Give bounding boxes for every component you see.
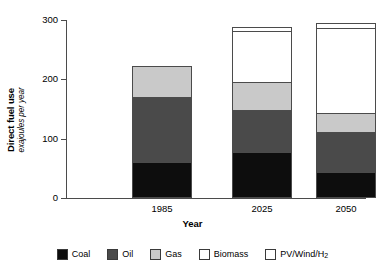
y-tick-mark: [61, 79, 66, 80]
legend-label: Oil: [122, 250, 133, 259]
legend-swatch: [57, 249, 68, 260]
bar-segment-biomass[interactable]: [232, 31, 292, 82]
bar-segment-oil[interactable]: [132, 97, 192, 162]
x-tick-label: 2025: [251, 203, 272, 214]
y-axis-line: [66, 20, 67, 198]
stacked-bar-chart: Direct fuel use exajoules per year 01002…: [0, 0, 385, 271]
legend-swatch: [199, 249, 210, 260]
y-tick-label: 300: [42, 15, 58, 25]
bar-segment-pv-wind-h2[interactable]: [316, 23, 376, 28]
bar-1985[interactable]: [132, 66, 192, 198]
bar-segment-coal[interactable]: [232, 152, 292, 198]
y-tick-label: 100: [42, 134, 58, 144]
bar-segment-gas[interactable]: [232, 82, 292, 110]
plot-area: 0100200300: [66, 20, 366, 198]
bar-segment-gas[interactable]: [316, 113, 376, 131]
bar-segment-coal[interactable]: [316, 172, 376, 198]
legend-item-oil[interactable]: Oil: [107, 249, 133, 260]
chart-legend: CoalOilGasBiomassPV/Wind/H2: [0, 243, 385, 265]
legend-item-gas[interactable]: Gas: [150, 249, 182, 260]
bar-segment-gas[interactable]: [132, 66, 192, 97]
bar-segment-biomass[interactable]: [316, 28, 376, 113]
legend-item-biomass[interactable]: Biomass: [199, 249, 249, 260]
legend-swatch: [107, 249, 118, 260]
y-tick-mark: [61, 139, 66, 140]
y-tick-mark: [61, 20, 66, 21]
bar-segment-coal[interactable]: [132, 162, 192, 198]
x-tick-label: 1985: [151, 203, 172, 214]
y-tick-mark: [61, 198, 66, 199]
legend-item-coal[interactable]: Coal: [57, 249, 91, 260]
y-tick-label: 0: [53, 193, 58, 203]
legend-label: Biomass: [214, 250, 249, 259]
x-axis-line: [66, 198, 366, 199]
x-tick-label: 2050: [335, 203, 356, 214]
bar-segment-pv-wind-h2[interactable]: [232, 27, 292, 31]
legend-label: PV/Wind/H2: [280, 250, 328, 259]
legend-swatch: [150, 249, 161, 260]
bar-2050[interactable]: [316, 23, 376, 198]
legend-swatch: [265, 249, 276, 260]
bar-segment-oil[interactable]: [316, 132, 376, 172]
legend-item-pv-wind-h[interactable]: PV/Wind/H2: [265, 249, 328, 260]
y-tick-label: 200: [42, 75, 58, 85]
legend-label: Gas: [165, 250, 182, 259]
bar-segment-oil[interactable]: [232, 110, 292, 152]
y-axis-title-main: Direct fuel use: [6, 40, 17, 200]
y-axis-title-units: exajoules per year: [17, 40, 26, 200]
x-axis-title: Year: [0, 218, 385, 229]
legend-label: Coal: [72, 250, 91, 259]
y-axis-title: Direct fuel use exajoules per year: [0, 40, 34, 200]
bar-2025[interactable]: [232, 27, 292, 198]
